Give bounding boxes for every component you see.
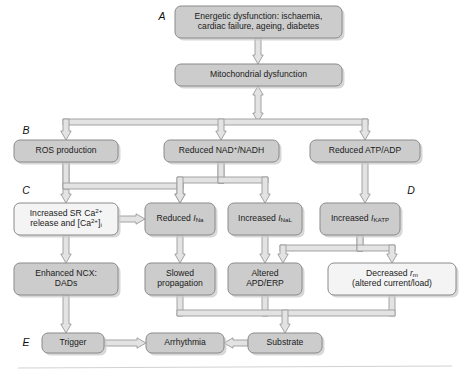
node-energetic-dysfunction-label: Energetic dysfunction: ischaemia, <box>194 11 322 21</box>
panel-label-a: A <box>157 10 165 22</box>
arrow-substrate-to-arrhythmia <box>224 338 248 348</box>
node-altered-apd-erp: AlteredAPD/ERP <box>228 263 305 298</box>
arrow-sr-calcium-to-ncx <box>61 235 71 263</box>
node-arrhythmia: Arrhythmia <box>146 333 227 356</box>
arrow-ros-to-reduced-ina <box>63 162 185 203</box>
panel-label-e: E <box>22 336 30 348</box>
arrow-reduced-ina-to-slowed-propagation <box>175 235 185 263</box>
node-slowed-propagation-label: propagation <box>157 278 203 288</box>
node-enhanced-ncx-dads-label: Enhanced NCX: <box>35 268 97 278</box>
bus-row2-distribution <box>61 119 370 140</box>
node-mitochondrial-dysfunction-label: Mitochondrial dysfunction <box>210 69 307 79</box>
node-substrate: Substrate <box>248 333 325 356</box>
node-enhanced-ncx-dads-label: DADs <box>55 278 77 288</box>
node-altered-apd-erp-label: APD/ERP <box>246 278 284 288</box>
arrow-nad-to-reduced-ina <box>175 162 224 203</box>
node-increased-sr-ca-release-label: Increased SR Ca2+ <box>30 207 103 218</box>
arrow-sr-calcium-to-reduced-ina <box>118 214 145 224</box>
flowchart-canvas: Energetic dysfunction: ischaemia,cardiac… <box>0 0 469 376</box>
node-increased-inal: Increased INaL <box>228 203 305 238</box>
node-trigger: Trigger <box>42 333 107 356</box>
node-decreased-rm-label: (altered current/load) <box>352 278 432 288</box>
node-decreased-rm-label: Decreased rm <box>366 268 418 278</box>
node-energetic-dysfunction: Energetic dysfunction: ischaemia,cardiac… <box>175 6 345 41</box>
node-enhanced-ncx-dads: Enhanced NCX:DADs <box>14 263 121 298</box>
arrow-ncx-to-trigger <box>61 295 71 333</box>
node-decreased-rm: Decreased rm(altered current/load) <box>328 263 459 298</box>
arrow-nad-to-increased-inal <box>218 162 270 203</box>
arrow-trigger-to-arrhythmia <box>104 338 146 348</box>
footer-divider <box>18 366 452 368</box>
node-altered-apd-erp-label: Altered <box>251 268 278 278</box>
node-energetic-dysfunction-label: cardiac failure, ageing, diabetes <box>198 21 319 31</box>
arrow-increased-inal-to-altered-apd <box>260 235 270 263</box>
node-slowed-propagation: Slowedpropagation <box>145 263 218 298</box>
node-ros-production-label: ROS production <box>35 145 96 155</box>
node-substrate-label: Substrate <box>267 337 304 347</box>
node-slowed-propagation-label: Slowed <box>166 268 194 278</box>
panel-label-c: C <box>22 184 30 196</box>
panel-label-d: D <box>407 184 415 196</box>
footer-rule-layer <box>18 366 452 368</box>
node-trigger-label: Trigger <box>60 337 87 347</box>
arrow-ikatp-to-altered-apd <box>278 235 363 263</box>
node-ros-production: ROS production <box>14 140 121 165</box>
flowchart-figure: Energetic dysfunction: ischaemia,cardiac… <box>0 0 469 376</box>
node-reduced-nad-nadh-label: Reduced NAD+/NADH <box>179 144 264 155</box>
node-reduced-nad-nadh: Reduced NAD+/NADH <box>164 140 282 165</box>
merge-to-substrate <box>177 295 395 333</box>
node-mitochondrial-dysfunction: Mitochondrial dysfunction <box>175 64 345 89</box>
node-reduced-atp-adp: Reduced ATP/ADP <box>310 140 423 165</box>
node-increased-ikatp: Increased IKATP <box>320 203 403 238</box>
arrow-ikatp-to-decreased-rm <box>357 235 397 263</box>
node-reduced-atp-adp-label: Reduced ATP/ADP <box>329 145 402 155</box>
panel-label-b: B <box>22 124 29 136</box>
node-reduced-ina: Reduced INa <box>145 203 218 238</box>
node-increased-sr-ca-release: Increased SR Ca2+release and [Ca2+]i <box>14 203 121 238</box>
arrow-energetic-to-mitochondrial <box>253 38 263 64</box>
arrow-mitochondrial-to-bus-bidirectional <box>253 86 263 122</box>
arrow-atp-to-increased-ikatp <box>360 162 370 203</box>
node-arrhythmia-label: Arrhythmia <box>164 337 206 347</box>
